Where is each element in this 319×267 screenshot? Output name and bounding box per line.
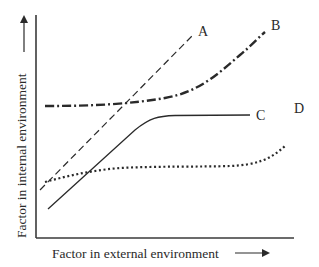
curve-b-label: B	[271, 18, 280, 33]
y-axis-label: Factor in internal environment	[14, 73, 29, 238]
curve-c	[48, 115, 250, 209]
curve-c-label: C	[256, 108, 265, 123]
curve-a-label: A	[198, 24, 209, 39]
curve-a	[40, 35, 193, 190]
x-axis-label: Factor in external environment	[52, 246, 219, 261]
curve-d	[45, 146, 285, 182]
curve-b	[45, 32, 265, 106]
curve-d-label: D	[294, 101, 304, 116]
chart: A B C D Factor in external environment F…	[0, 0, 319, 267]
